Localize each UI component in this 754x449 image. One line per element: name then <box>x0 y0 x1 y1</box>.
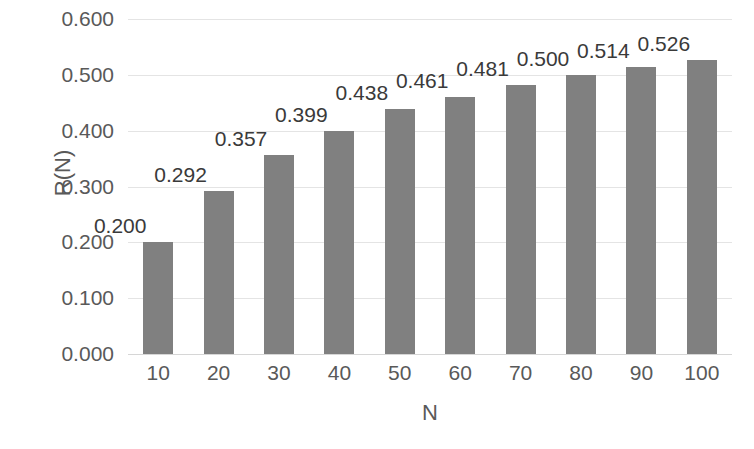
bar[interactable] <box>566 75 596 354</box>
bar[interactable] <box>687 60 717 354</box>
bar-value-label: 0.292 <box>143 163 219 187</box>
y-axis-tick-label: 0.100 <box>0 286 114 310</box>
bar-slot <box>309 19 369 354</box>
bar[interactable] <box>143 242 173 354</box>
plot-area: 0.2000.2920.3570.3990.4380.4610.4810.500… <box>128 19 732 354</box>
bar-slot <box>611 19 671 354</box>
x-axis-title: N <box>128 400 732 426</box>
bar[interactable] <box>385 109 415 354</box>
x-axis-tick-label: 20 <box>207 361 230 385</box>
y-axis-tick-label: 0.600 <box>0 7 114 31</box>
x-axis-tick-label: 70 <box>509 361 532 385</box>
bar-value-label: 0.526 <box>626 32 702 56</box>
gridline <box>128 354 732 355</box>
y-axis-tick-label: 0.000 <box>0 342 114 366</box>
bar[interactable] <box>506 85 536 354</box>
x-axis-tick-label: 60 <box>449 361 472 385</box>
y-axis-tick-label: 0.500 <box>0 63 114 87</box>
x-axis-tick-label: 30 <box>267 361 290 385</box>
bar-slot <box>249 19 309 354</box>
bar-chart: R(N) 0.0000.1000.2000.3000.4000.5000.600… <box>0 0 754 449</box>
bar[interactable] <box>324 131 354 354</box>
x-axis-tick-label: 80 <box>569 361 592 385</box>
bar-value-label: 0.399 <box>263 103 339 127</box>
x-axis-tick-label: 50 <box>388 361 411 385</box>
y-axis-tick-label: 0.400 <box>0 119 114 143</box>
x-axis-tick-labels: 102030405060708090100 <box>128 361 732 395</box>
bar[interactable] <box>204 191 234 354</box>
bar-value-label: 0.357 <box>203 127 279 151</box>
x-axis-tick-label: 100 <box>684 361 719 385</box>
y-axis-tick-label: 0.300 <box>0 175 114 199</box>
x-axis-tick-label: 40 <box>328 361 351 385</box>
bar[interactable] <box>445 97 475 354</box>
x-axis-tick-label: 90 <box>630 361 653 385</box>
bar[interactable] <box>626 67 656 354</box>
x-axis-tick-label: 10 <box>147 361 170 385</box>
bar[interactable] <box>264 155 294 354</box>
bar-slot <box>672 19 732 354</box>
bars: 0.2000.2920.3570.3990.4380.4610.4810.500… <box>128 19 732 354</box>
bar-value-label: 0.200 <box>82 214 158 238</box>
